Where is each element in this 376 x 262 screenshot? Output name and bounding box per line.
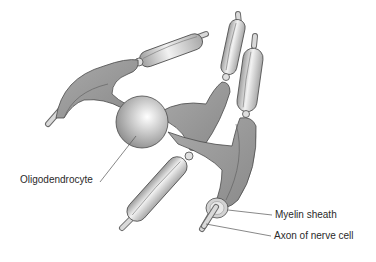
label-myelin-sheath: Myelin sheath: [275, 209, 337, 220]
leader-oligodendrocyte: [100, 136, 136, 182]
label-axon-of-nerve-cell: Axon of nerve cell: [274, 230, 354, 241]
oligodendrocyte-soma: [116, 96, 168, 148]
label-oligodendrocyte: Oligodendrocyte: [20, 174, 93, 185]
leader-axon: [206, 224, 271, 236]
myelin-sheath-cross-section: [204, 198, 228, 226]
oligodendrocyte-diagram: [0, 0, 376, 262]
leader-myelin-sheath: [228, 210, 272, 215]
